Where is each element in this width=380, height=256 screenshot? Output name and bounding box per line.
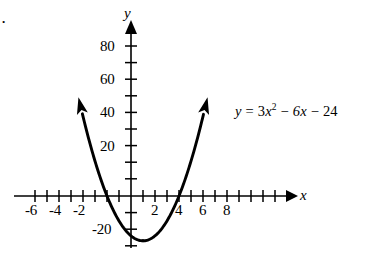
right-branch-arrowhead [198, 97, 209, 115]
graph-figure: . [0, 0, 380, 256]
equation-term1-var: x [265, 103, 272, 119]
y-axis-label: y [124, 6, 131, 21]
x-axis-ticks [35, 190, 275, 202]
equation-annotation: y = 3x2 − 6x − 24 [235, 104, 338, 119]
equation-minus-1: − [277, 103, 293, 119]
equation-lhs: y [235, 103, 242, 119]
x-tick-label-neg2: -2 [73, 203, 85, 218]
x-tick-label-8: 8 [223, 203, 230, 218]
y-axis-arrowhead [125, 20, 137, 34]
equation-term2: 6x [293, 103, 307, 119]
y-tick-label-60: 60 [100, 72, 115, 87]
y-tick-label-20: 20 [100, 139, 115, 154]
x-tick-label-6: 6 [199, 203, 206, 218]
x-tick-label-neg6: -6 [25, 203, 37, 218]
equation-minus-2: − [307, 103, 323, 119]
x-axis-label: x [300, 188, 307, 203]
y-tick-label-80: 80 [100, 39, 115, 54]
y-tick-label-40: 40 [100, 105, 115, 120]
equation-term3: 24 [323, 103, 338, 119]
y-tick-label-neg20: -20 [92, 222, 111, 237]
x-tick-label-4: 4 [175, 203, 182, 218]
equation-equals: = [242, 103, 258, 119]
equation-term1-coeff: 3 [258, 103, 265, 119]
parabola-right-branch [143, 114, 203, 241]
x-tick-label-2: 2 [151, 203, 158, 218]
x-axis-arrowhead [286, 190, 298, 202]
x-tick-label-neg4: -4 [49, 203, 61, 218]
